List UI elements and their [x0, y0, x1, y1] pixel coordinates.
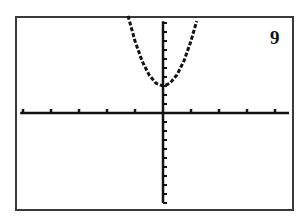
- panel-number-label: 9: [270, 28, 280, 47]
- graph-canvas: [0, 0, 308, 218]
